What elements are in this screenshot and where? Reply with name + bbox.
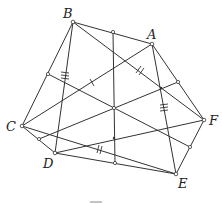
midpoint-CD: [37, 137, 40, 140]
label-B: B: [62, 6, 73, 21]
vertex-F: [202, 118, 206, 122]
segment-AE: [152, 44, 176, 174]
segment-AC: [22, 44, 152, 126]
vertex-D: [53, 151, 57, 155]
label-A: A: [146, 27, 156, 42]
midpoint-BA: [111, 30, 114, 33]
vertex-A: [150, 42, 154, 46]
geometry-diagram: B A C F D E: [0, 0, 222, 204]
segment-BD: [55, 22, 73, 153]
label-E: E: [177, 176, 188, 191]
label-F: F: [208, 113, 219, 128]
midpoint-AF: [176, 80, 179, 83]
midlines: [39, 32, 190, 163]
midpoint-FE: [188, 145, 191, 148]
segment-BF: [73, 22, 204, 120]
midpoint-DE: [113, 161, 116, 164]
label-C: C: [6, 119, 16, 134]
segment-DF: [55, 120, 204, 153]
label-D: D: [42, 156, 54, 171]
midpoint-BC: [46, 72, 49, 75]
midline-BC-FE: [48, 74, 190, 147]
center-point: [112, 106, 115, 109]
vertex-C: [20, 124, 24, 128]
midline-BA-DE: [113, 32, 115, 163]
